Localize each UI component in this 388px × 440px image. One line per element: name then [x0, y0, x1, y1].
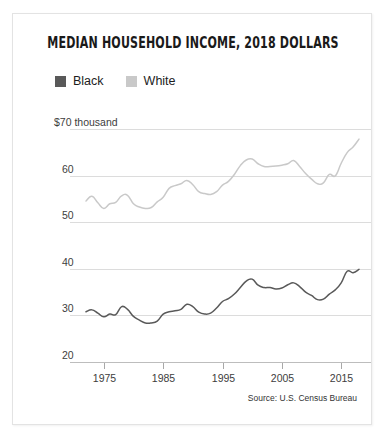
y-axis-tick-label: 60: [62, 163, 74, 175]
series-line-white: [86, 139, 359, 208]
source-note: Source: U.S. Census Bureau: [248, 393, 357, 403]
x-axis-tick-label: 1985: [152, 372, 176, 384]
x-axis-tick-label: 1995: [212, 372, 236, 384]
y-axis-labels-group: $70 thousand6050403020: [54, 116, 118, 361]
series-group: [86, 139, 359, 323]
x-axis-tick-label: 1975: [93, 372, 117, 384]
y-axis-tick-label: 20: [62, 349, 74, 361]
y-axis-tick-label: $70 thousand: [54, 116, 118, 128]
x-axis-tick-label: 2015: [330, 372, 354, 384]
plot-area: $70 thousand6050403020 19751985199520052…: [13, 14, 373, 426]
y-axis-tick-label: 30: [62, 302, 74, 314]
line-chart-svg: $70 thousand6050403020 19751985199520052…: [13, 14, 373, 426]
y-axis-tick-label: 50: [62, 209, 74, 221]
x-axis-tick-label: 2005: [271, 372, 295, 384]
x-axis-group: 19751985199520052015: [70, 363, 371, 385]
gridlines-group: [70, 130, 371, 363]
chart-card: MEDIAN HOUSEHOLD INCOME, 2018 DOLLARS Bl…: [12, 13, 372, 425]
y-axis-tick-label: 40: [62, 256, 74, 268]
